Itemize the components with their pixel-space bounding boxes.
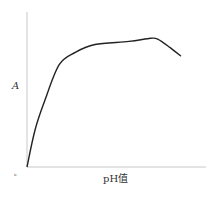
x-axis-label: pH值 [103, 172, 128, 184]
chart: A pH值 o [0, 0, 224, 203]
data-curve [27, 38, 181, 167]
origin-label: o [14, 172, 17, 177]
y-axis-label: A [11, 80, 19, 91]
